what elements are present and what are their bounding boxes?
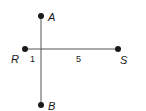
length-right: 5 — [76, 54, 81, 64]
point-b — [38, 102, 44, 108]
point-s — [115, 46, 121, 52]
label-s: S — [120, 54, 128, 66]
geometry-diagram: A R S B 1 5 — [0, 0, 146, 111]
label-r: R — [11, 53, 19, 65]
point-a — [38, 13, 44, 19]
label-b: B — [48, 100, 55, 111]
point-r — [22, 46, 28, 52]
label-a: A — [47, 11, 55, 23]
length-left: 1 — [30, 54, 35, 64]
